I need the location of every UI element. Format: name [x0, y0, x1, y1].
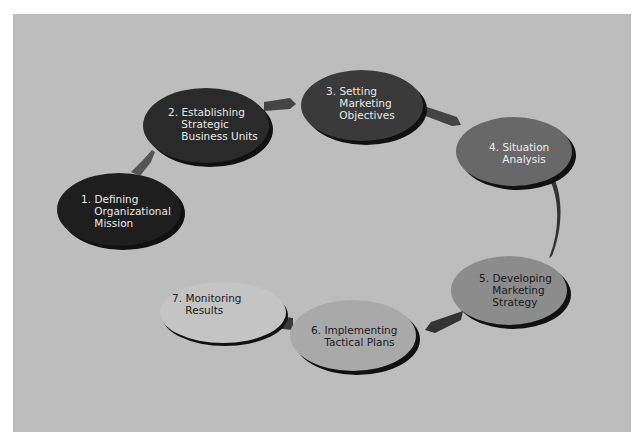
step-5-number: 5.	[479, 272, 489, 284]
step-6-number: 6.	[311, 324, 321, 336]
step-1-number: 1.	[81, 193, 91, 205]
step-3-number: 3.	[326, 85, 336, 97]
step-7-line2: Results	[185, 304, 223, 316]
step-2-line2: Strategic	[181, 118, 228, 130]
step-4-line2: Analysis	[502, 153, 545, 165]
step-1-line2: Organizational	[94, 205, 170, 217]
step-3-line1: Setting	[339, 85, 377, 97]
step-4-number: 4.	[489, 141, 499, 153]
step-2-establishing-strategic-business-units: 2. Establishing Strategic Business Units	[143, 88, 273, 168]
step-7-monitoring-results: 7. Monitoring Results	[160, 282, 290, 348]
step-3-line2: Marketing	[339, 97, 391, 109]
step-7-number: 7.	[172, 292, 182, 304]
step-3-line3: Objectives	[339, 109, 394, 121]
step-5-developing-marketing-strategy: 5. Developing Marketing Strategy	[451, 256, 571, 330]
step-5-line2: Marketing	[492, 284, 544, 296]
step-5-line3: Strategy	[492, 296, 537, 308]
step-1-line3: Mission	[94, 217, 133, 229]
step-2-line3: Business Units	[181, 130, 257, 142]
step-4-situation-analysis: 4. Situation Analysis	[456, 117, 576, 191]
step-1-defining-organizational-mission: 1. Defining Organizational Mission	[57, 173, 185, 251]
step-4-line1: Situation	[502, 141, 549, 153]
step-5-line1: Developing	[492, 272, 551, 284]
step-1-line1: Defining	[94, 193, 138, 205]
step-2-line1: Establishing	[181, 106, 245, 118]
step-7-line1: Monitoring	[185, 292, 241, 304]
step-3-setting-marketing-objectives: 3. Setting Marketing Objectives	[301, 70, 427, 146]
step-6-line2: Tactical Plans	[324, 336, 394, 348]
step-6-line1: Implementing	[324, 324, 397, 336]
step-2-number: 2.	[168, 106, 178, 118]
step-6-implementing-tactical-plans: 6. Implementing Tactical Plans	[290, 300, 420, 376]
